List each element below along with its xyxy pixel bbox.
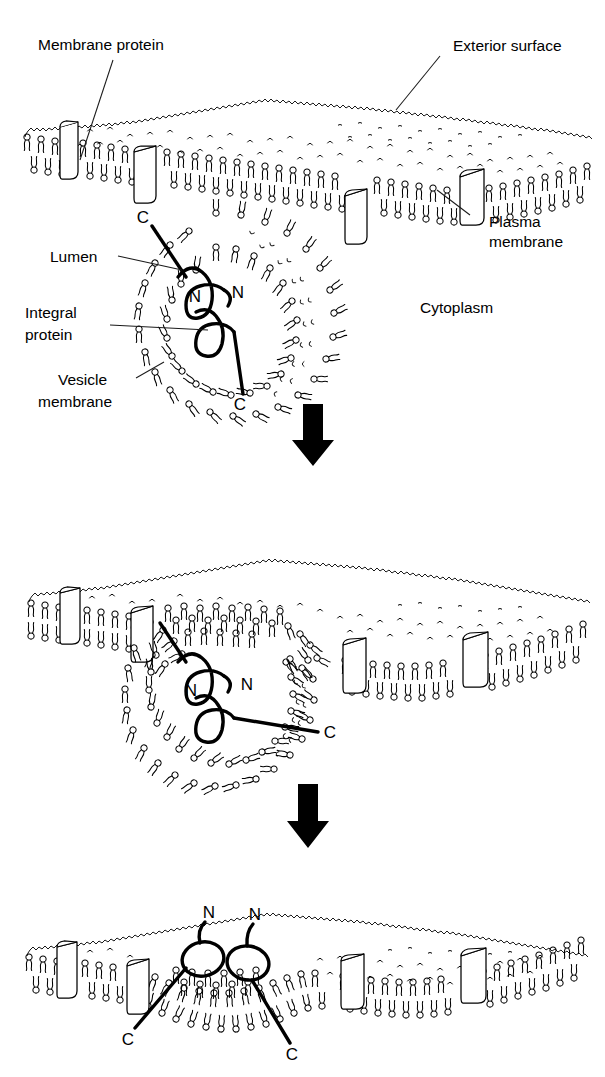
label-vesicle-membrane-line1: Vesicle xyxy=(58,371,107,388)
label-membrane-protein: Membrane protein xyxy=(38,36,164,53)
membrane-protein-box-2-3 xyxy=(343,638,366,693)
membrane-protein-box-2-2 xyxy=(131,606,153,662)
background xyxy=(0,0,605,1077)
terminus-c-right-3: C xyxy=(286,1045,298,1064)
terminus-n-left: N xyxy=(189,287,201,306)
terminus-n-left-2: N xyxy=(185,681,197,700)
label-integral-protein-line2: protein xyxy=(25,326,72,343)
membrane-protein-box-3-1 xyxy=(57,941,77,998)
membrane-protein-box-2 xyxy=(134,146,156,203)
label-lumen: Lumen xyxy=(50,248,97,265)
label-integral-protein-line1: Integral xyxy=(25,304,77,321)
terminus-n-right-3: N xyxy=(249,905,261,924)
membrane-protein-box-3-2 xyxy=(127,959,149,1014)
figure-container: C N N C Membrane protein Exterior surfac… xyxy=(0,0,605,1077)
membrane-protein-box-1 xyxy=(60,121,78,179)
label-vesicle-membrane-line2: membrane xyxy=(38,393,112,410)
membrane-protein-box-3 xyxy=(345,189,367,244)
membrane-protein-box-4 xyxy=(460,169,484,225)
label-plasma-membrane-line2: membrane xyxy=(489,233,563,250)
terminus-c-top: C xyxy=(137,208,149,227)
terminus-c-bottom: C xyxy=(234,395,246,414)
terminus-n-right-2: N xyxy=(241,675,253,694)
label-exterior-surface: Exterior surface xyxy=(453,37,562,54)
membrane-protein-box-2-4 xyxy=(463,632,488,687)
membrane-protein-box-3-4 xyxy=(461,948,486,1003)
terminus-n-right: N xyxy=(232,283,244,302)
terminus-c-2: C xyxy=(324,723,336,742)
label-cytoplasm: Cytoplasm xyxy=(420,299,493,316)
vesicle-fusion-diagram: C N N C Membrane protein Exterior surfac… xyxy=(0,0,605,1077)
terminus-c-left-3: C xyxy=(122,1030,134,1049)
label-plasma-membrane-line1: Plasma xyxy=(489,213,541,230)
membrane-protein-box-2-1 xyxy=(60,587,80,644)
membrane-protein-box-3-3 xyxy=(341,954,364,1009)
terminus-n-left-3: N xyxy=(203,903,215,922)
